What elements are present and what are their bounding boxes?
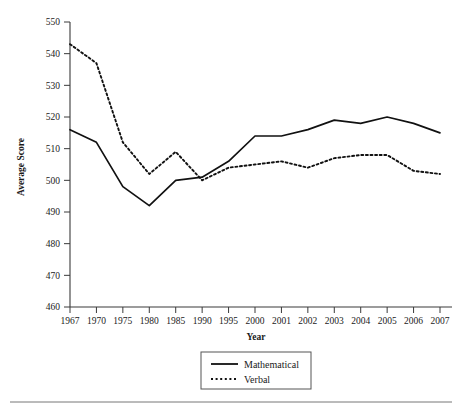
chart-legend: Mathematical Verbal xyxy=(201,352,311,389)
y-tick-label: 500 xyxy=(46,176,61,186)
y-axis-tick-labels: 550540530520510500490480470460 xyxy=(46,17,61,312)
x-tick-label: 1980 xyxy=(140,316,159,326)
x-tick-label: 1967 xyxy=(61,316,80,326)
x-tick-label: 2003 xyxy=(325,316,344,326)
x-tick-label: 2007 xyxy=(431,316,450,326)
y-axis-ticks xyxy=(64,22,70,307)
x-tick-label: 2000 xyxy=(246,316,265,326)
y-tick-label: 480 xyxy=(46,239,61,249)
x-tick-label: 2004 xyxy=(351,316,370,326)
y-tick-label: 540 xyxy=(46,49,61,59)
y-tick-label: 510 xyxy=(46,144,61,154)
y-tick-label: 460 xyxy=(46,302,61,312)
y-tick-label: 470 xyxy=(46,271,61,281)
x-axis-title: Year xyxy=(247,332,267,342)
series-line-verbal xyxy=(70,44,440,180)
x-tick-label: 1975 xyxy=(113,316,132,326)
y-tick-label: 550 xyxy=(46,17,61,27)
x-tick-label: 1985 xyxy=(166,316,185,326)
x-tick-label: 2005 xyxy=(378,316,397,326)
y-tick-label: 530 xyxy=(46,81,61,91)
y-tick-label: 520 xyxy=(46,112,61,122)
x-tick-label: 1995 xyxy=(219,316,238,326)
y-axis-title: Average Score xyxy=(16,138,26,196)
x-tick-label: 1970 xyxy=(87,316,106,326)
x-tick-label: 2006 xyxy=(404,316,423,326)
x-tick-label: 2002 xyxy=(298,316,317,326)
x-tick-label: 2001 xyxy=(272,316,291,326)
legend-label-verbal: Verbal xyxy=(244,374,270,385)
x-tick-label: 1990 xyxy=(193,316,212,326)
line-chart: 550540530520510500490480470460 196719701… xyxy=(0,0,462,414)
chart-figure: 550540530520510500490480470460 196719701… xyxy=(0,0,462,414)
legend-label-mathematical: Mathematical xyxy=(244,359,299,370)
x-axis-ticks xyxy=(70,307,440,313)
y-tick-label: 490 xyxy=(46,207,61,217)
x-axis-tick-labels: 1967197019751980198519901995200020012002… xyxy=(61,316,450,326)
series-line-mathematical xyxy=(70,117,440,206)
